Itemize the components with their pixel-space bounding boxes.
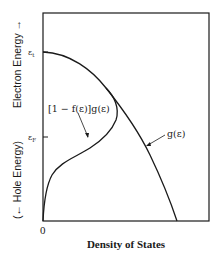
g-epsilon-label: g(ε) (167, 128, 185, 139)
epsilon-f-label: εF (28, 133, 36, 143)
x-origin-label: 0 (40, 224, 46, 236)
energy-band-diagram: [1 − f(ε)]g(ε) g(ε) εt εF 0 Density of S… (0, 0, 216, 258)
unoccupied-states-label: [1 − f(ε)]g(ε) (48, 103, 110, 114)
arrowhead-icon (146, 142, 151, 146)
g-epsilon-curve (43, 52, 177, 221)
x-axis-label: Density of States (87, 238, 166, 250)
arrowhead-icon (85, 133, 89, 138)
plot-frame (43, 13, 209, 221)
y-axis-label-hole: (← Hole Energy) (11, 141, 23, 219)
g-label-leader (148, 135, 165, 145)
y-axis-label-electron: Electron Energy → (11, 20, 23, 108)
epsilon-t-label: εt (28, 48, 35, 58)
